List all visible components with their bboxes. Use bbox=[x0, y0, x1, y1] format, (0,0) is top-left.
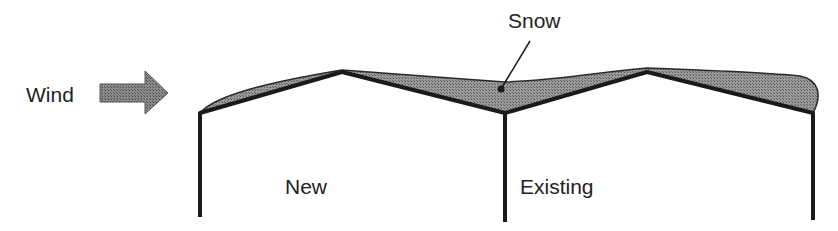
new-building-label: New bbox=[285, 176, 327, 197]
existing-building-label: Existing bbox=[520, 176, 594, 197]
snow-label: Snow bbox=[508, 10, 561, 31]
diagram-canvas bbox=[0, 0, 838, 231]
wind-arrow-icon bbox=[100, 71, 168, 114]
wind-label: Wind bbox=[26, 84, 74, 105]
